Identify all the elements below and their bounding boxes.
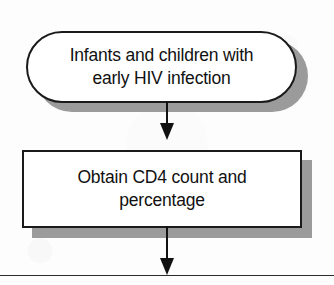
- flowchart-canvas: Infants and children with early HIV infe…: [0, 0, 334, 285]
- start-node-line-2: early HIV infection: [92, 67, 230, 90]
- arrowhead-down-icon: [160, 258, 174, 275]
- connector-stem: [166, 226, 168, 260]
- connector-stem: [166, 101, 168, 125]
- cd4-node-text: Obtain CD4 count and percentage: [24, 152, 300, 226]
- start-node-text: Infants and children with early HIV infe…: [28, 33, 295, 101]
- connector-arrow-cd4-to-next: [160, 226, 174, 277]
- cd4-node-line-2: percentage: [119, 189, 205, 212]
- flowchart-node-cd4[interactable]: Obtain CD4 count and percentage: [22, 150, 302, 228]
- flowchart-node-start[interactable]: Infants and children with early HIV infe…: [26, 31, 297, 103]
- start-node-line-1: Infants and children with: [70, 44, 254, 67]
- bottom-divider-rule: [0, 275, 334, 276]
- arrowhead-down-icon: [160, 123, 174, 140]
- connector-arrow-start-to-cd4: [160, 101, 174, 141]
- cd4-node-line-1: Obtain CD4 count and: [77, 166, 246, 189]
